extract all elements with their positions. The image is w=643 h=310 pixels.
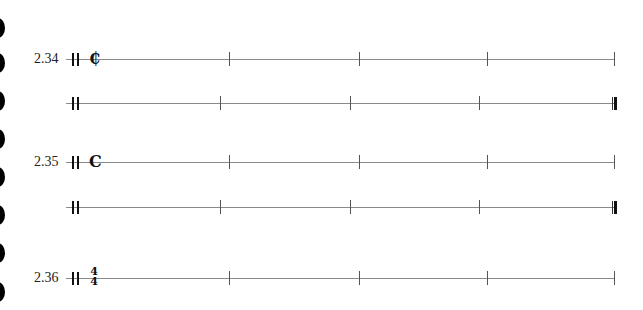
- barline: [220, 200, 221, 214]
- cut-time-icon: ₵: [89, 49, 100, 68]
- start-double-bar: [72, 156, 80, 169]
- staff-line: [66, 207, 615, 208]
- time-signature-denominator: 4: [89, 277, 99, 287]
- binder-hole: [0, 91, 5, 111]
- example-label: 2.36: [34, 271, 59, 285]
- rhythm-staff-2-36: 2.36 4 4: [0, 278, 643, 279]
- example-label: 2.34: [34, 52, 59, 66]
- staff-line: [66, 103, 615, 104]
- rhythm-staff-continuation: [0, 103, 643, 104]
- rhythm-staff-continuation: [0, 207, 643, 208]
- barline: [350, 96, 351, 110]
- barline: [229, 271, 230, 285]
- binder-hole: [0, 53, 5, 73]
- rhythm-staff-2-34: 2.34 ₵: [0, 59, 643, 60]
- barline: [487, 52, 488, 66]
- binder-hole: [0, 205, 5, 225]
- binder-hole: [0, 282, 5, 302]
- binder-hole: [0, 18, 5, 38]
- barline: [359, 155, 360, 169]
- staff-line: [66, 278, 615, 279]
- barline: [229, 52, 230, 66]
- common-time-icon: C: [89, 152, 102, 171]
- final-barline: [612, 201, 618, 214]
- rhythm-staff-2-35: 2.35 C: [0, 162, 643, 163]
- barline: [359, 271, 360, 285]
- time-signature-4-4: 4 4: [89, 267, 99, 287]
- binder-hole: [0, 243, 5, 263]
- start-double-bar: [72, 97, 80, 110]
- final-barline: [612, 97, 618, 110]
- example-label: 2.35: [34, 155, 59, 169]
- barline: [229, 155, 230, 169]
- barline: [487, 155, 488, 169]
- barline: [479, 200, 480, 214]
- barline: [614, 52, 615, 66]
- staff-line: [66, 162, 615, 163]
- barline: [479, 96, 480, 110]
- start-double-bar: [72, 272, 80, 285]
- barline: [220, 96, 221, 110]
- barline: [614, 271, 615, 285]
- barline: [350, 200, 351, 214]
- staff-line: [66, 59, 615, 60]
- barline: [359, 52, 360, 66]
- start-repeat-double-bar: [72, 53, 80, 66]
- binder-hole: [0, 129, 5, 149]
- start-double-bar: [72, 201, 80, 214]
- barline: [487, 271, 488, 285]
- binder-hole: [0, 167, 5, 187]
- barline: [614, 155, 615, 169]
